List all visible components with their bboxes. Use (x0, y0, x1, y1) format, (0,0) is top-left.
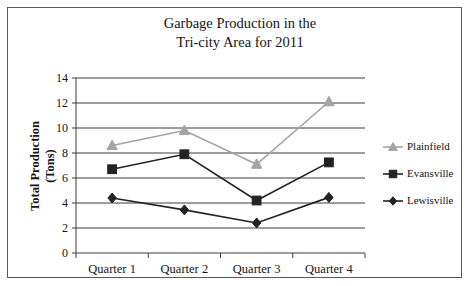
y-tick-label: 4 (62, 196, 68, 210)
y-gridlines (76, 78, 365, 228)
legend-label: Evansville (407, 167, 454, 179)
series-line (112, 197, 329, 223)
data-point-marker-square (108, 165, 117, 174)
chart-legend: PlainfieldEvansvilleLewisville (383, 140, 454, 206)
series-evansville (108, 150, 334, 205)
chart-title: Garbage Production in theTri-city Area f… (164, 15, 317, 50)
x-tick-label: Quarter 4 (305, 262, 353, 276)
series-line (112, 154, 329, 200)
y-axis-label: Total Production(Tons) (28, 121, 57, 211)
chart-title-line: Garbage Production in the (164, 15, 317, 31)
y-tick-label: 14 (56, 71, 68, 85)
y-tick-label: 12 (56, 96, 68, 110)
data-point-marker-diamond (325, 192, 334, 202)
legend-label: Lewisville (407, 194, 454, 206)
data-point-marker-square (252, 196, 261, 205)
chart-figure: Garbage Production in theTri-city Area f… (0, 0, 470, 286)
y-axis-ticks: 02468101214 (56, 71, 76, 260)
data-point-marker-diamond (108, 193, 117, 203)
y-tick-label: 2 (62, 221, 68, 235)
y-tick-label: 8 (62, 146, 68, 160)
data-point-marker-diamond (252, 218, 261, 228)
y-axis-label-line: (Tons) (43, 149, 57, 183)
x-tick-label: Quarter 3 (233, 262, 281, 276)
legend-item-plainfield[interactable]: Plainfield (383, 140, 450, 152)
y-tick-label: 0 (62, 246, 68, 260)
x-tick-label: Quarter 1 (88, 262, 136, 276)
legend-label: Plainfield (407, 140, 450, 152)
data-point-marker-triangle (324, 96, 334, 105)
series-plainfield (107, 96, 334, 168)
data-point-marker-square (180, 150, 189, 159)
data-point-marker-diamond (389, 197, 396, 206)
legend-item-lewisville[interactable]: Lewisville (383, 194, 454, 206)
line-chart: Garbage Production in theTri-city Area f… (0, 0, 470, 286)
y-tick-label: 6 (62, 171, 68, 185)
data-point-marker-square (324, 158, 333, 167)
x-tick-label: Quarter 2 (161, 262, 209, 276)
data-point-marker-square (389, 170, 396, 177)
data-point-marker-triangle (179, 125, 189, 134)
y-axis-label-line: Total Production (28, 121, 42, 211)
x-axis-labels: Quarter 1Quarter 2Quarter 3Quarter 4 (88, 262, 353, 276)
series-lewisville (108, 192, 333, 228)
legend-item-evansville[interactable]: Evansville (383, 167, 454, 179)
y-tick-label: 10 (56, 121, 68, 135)
series-line (112, 102, 329, 165)
chart-title-line: Tri-city Area for 2011 (176, 34, 303, 50)
data-point-marker-diamond (180, 205, 189, 215)
